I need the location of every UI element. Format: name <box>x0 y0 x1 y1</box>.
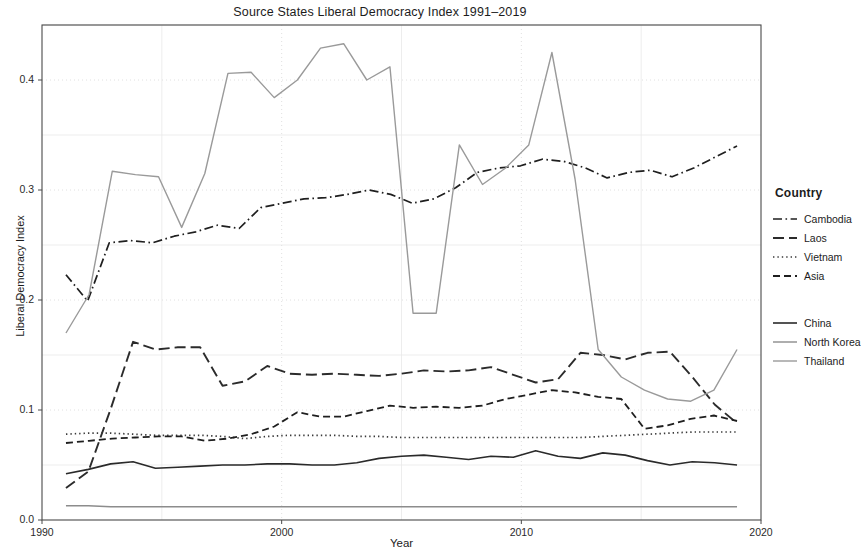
legend-group-dashed: CambodiaLaosVietnamAsia <box>772 209 857 285</box>
legend-item-label: Laos <box>804 232 827 244</box>
legend-title: Country <box>775 186 857 200</box>
y-tick-label: 0.2 <box>0 293 34 305</box>
y-tick-label: 0.3 <box>0 183 34 195</box>
legend-line-icon <box>772 232 798 244</box>
legend-item-label: Thailand <box>804 355 844 367</box>
y-tick-label: 0.0 <box>0 513 34 525</box>
minor-gridlines <box>42 25 761 520</box>
y-tick-label: 0.4 <box>0 73 34 85</box>
legend-item-label: China <box>804 317 831 329</box>
legend-line-icon <box>772 336 798 348</box>
legend-line-icon <box>772 317 798 329</box>
legend-line-icon <box>772 355 798 367</box>
legend-item-label: Vietnam <box>804 251 842 263</box>
legend-line-icon <box>772 213 798 225</box>
legend-item-china[interactable]: China <box>772 313 857 332</box>
legend-line-icon <box>772 251 798 263</box>
legend-group-solid: ChinaNorth KoreaThailand <box>772 313 857 370</box>
legend-item-thailand[interactable]: Thailand <box>772 351 857 370</box>
legend-item-asia[interactable]: Asia <box>772 266 857 285</box>
x-tick-label: 2020 <box>739 526 783 538</box>
chart-legend: Country CambodiaLaosVietnamAsia ChinaNor… <box>772 186 857 370</box>
legend-item-label: Asia <box>804 270 824 282</box>
legend-spacer <box>772 285 857 313</box>
x-tick-label: 2010 <box>499 526 543 538</box>
legend-item-north-korea[interactable]: North Korea <box>772 332 857 351</box>
legend-item-cambodia[interactable]: Cambodia <box>772 209 857 228</box>
x-tick-label: 1990 <box>20 526 64 538</box>
legend-item-label: Cambodia <box>804 213 852 225</box>
legend-item-label: North Korea <box>804 336 861 348</box>
legend-item-vietnam[interactable]: Vietnam <box>772 247 857 266</box>
legend-line-icon <box>772 270 798 282</box>
x-tick-label: 2000 <box>260 526 304 538</box>
legend-item-laos[interactable]: Laos <box>772 228 857 247</box>
axis-ticks <box>38 80 761 524</box>
y-tick-label: 0.1 <box>0 403 34 415</box>
